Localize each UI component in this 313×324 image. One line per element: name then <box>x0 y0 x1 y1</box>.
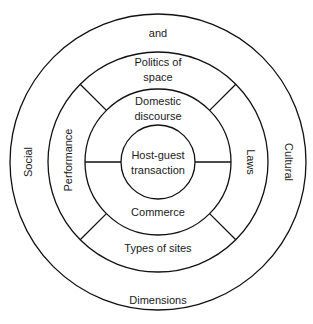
label-middle-right: Laws <box>245 149 257 175</box>
label-outer-bottom: Dimensions <box>129 294 187 306</box>
label-inner-bottom: Commerce <box>131 206 185 218</box>
divider-middle-top-left <box>80 84 106 110</box>
ring-core <box>121 125 195 199</box>
label-outer-top: and <box>149 27 167 39</box>
label-outer-right: Cultural <box>283 143 295 181</box>
label-middle-top-line2: space <box>143 71 172 83</box>
label-middle-left: Performance <box>62 129 74 192</box>
label-core-line2: transaction <box>131 164 185 176</box>
label-core-line1: Host-guest <box>131 149 184 161</box>
label-inner-top-line1: Domestic <box>135 95 181 107</box>
label-outer-left: Social <box>22 147 34 177</box>
label-middle-top-line1: Politics of <box>134 56 182 68</box>
label-inner-top-line2: discourse <box>134 110 181 122</box>
concentric-diagram: and Dimensions Social Cultural Politics … <box>0 0 313 324</box>
divider-middle-bottom-right <box>210 214 236 240</box>
label-middle-bottom: Types of sites <box>124 242 192 254</box>
divider-middle-top-right <box>210 84 236 110</box>
divider-middle-bottom-left <box>80 214 106 240</box>
